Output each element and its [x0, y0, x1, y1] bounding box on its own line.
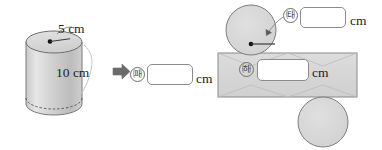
answer-marker-b: ㈚	[130, 67, 145, 82]
cylinder-height-label: 10 cm	[56, 66, 89, 80]
answer-marker-a: ㈙	[283, 8, 298, 23]
base-circle-bottom	[298, 97, 348, 147]
cylinder-radius-label: 5 cm	[58, 22, 85, 36]
answer-marker-c: ㈛	[239, 62, 254, 77]
answer-unit-b: cm	[196, 72, 213, 86]
answer-input-a[interactable]	[300, 7, 346, 28]
right-arrow-icon	[113, 64, 130, 79]
answer-unit-c: cm	[312, 66, 329, 80]
answer-input-c[interactable]	[257, 59, 309, 81]
figure-canvas: 5 cm 10 cm ㈚ cm ㈙ cm ㈛ cm	[0, 0, 382, 150]
base-circle-top	[226, 5, 276, 55]
answer-input-b[interactable]	[147, 64, 193, 85]
answer-unit-a: cm	[350, 14, 367, 28]
